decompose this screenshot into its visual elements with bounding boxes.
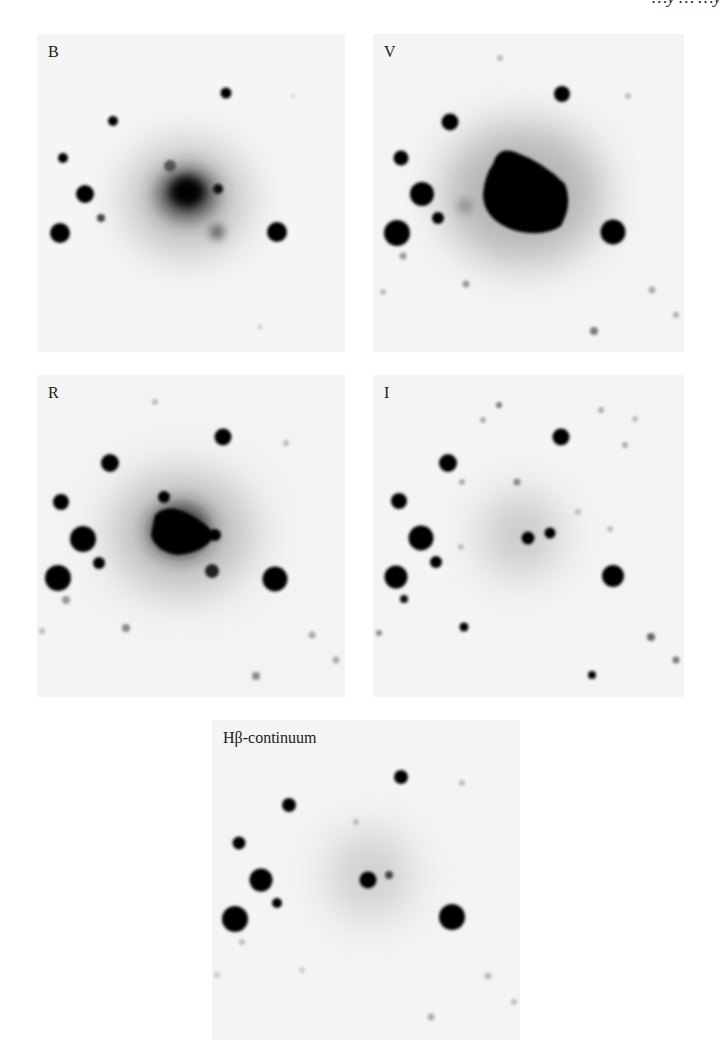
panel-v-band: V xyxy=(373,34,684,352)
b-band-image xyxy=(37,34,345,352)
panel-label-v: V xyxy=(384,43,396,61)
hbeta-continuum-image xyxy=(212,720,520,1040)
panel-label-i: I xyxy=(384,384,389,402)
panel-label-hbeta-continuum: Hβ-continuum xyxy=(223,729,316,747)
v-band-image xyxy=(373,34,684,352)
panel-i-band: I xyxy=(373,375,684,697)
panel-label-b: B xyxy=(48,43,59,61)
panel-b-band: B xyxy=(37,34,345,352)
panel-r-band: R xyxy=(37,375,345,697)
r-band-image xyxy=(37,375,345,697)
filter-image-mosaic: B xyxy=(0,0,727,1064)
panel-hbeta-continuum: Hβ-continuum xyxy=(212,720,520,1040)
i-band-image xyxy=(373,375,684,697)
panel-label-r: R xyxy=(48,384,59,402)
